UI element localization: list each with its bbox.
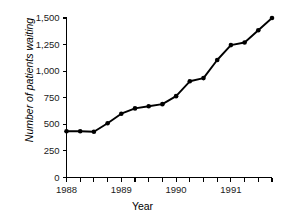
data-point-marker xyxy=(256,28,261,33)
y-axis-tick-label: 0 xyxy=(18,173,60,183)
data-point-marker xyxy=(201,76,206,81)
data-line xyxy=(67,18,273,132)
line-chart: 02505007501,0001,2501,500 19881989199019… xyxy=(0,0,285,222)
data-point-marker xyxy=(242,40,247,45)
x-axis-tick-label: 1991 xyxy=(209,185,253,195)
x-axis-tick-label: 1989 xyxy=(99,185,143,195)
x-axis-title: Year xyxy=(0,200,285,212)
data-point-marker xyxy=(188,79,193,84)
data-point-marker xyxy=(146,104,151,109)
data-point-marker xyxy=(174,94,179,99)
data-series-line xyxy=(64,16,274,134)
data-point-marker xyxy=(64,129,69,134)
data-point-marker xyxy=(229,43,234,48)
data-point-marker xyxy=(92,129,97,134)
axes xyxy=(63,18,273,182)
data-point-marker xyxy=(133,106,138,111)
y-axis-title: Number of patients waiting xyxy=(23,5,35,155)
data-point-marker xyxy=(270,16,275,21)
data-point-marker xyxy=(160,102,165,107)
data-point-marker xyxy=(215,58,220,63)
data-point-marker xyxy=(78,129,83,134)
data-point-marker xyxy=(119,111,124,116)
x-axis-tick-label: 1990 xyxy=(154,185,198,195)
data-point-marker xyxy=(105,121,110,126)
x-axis-tick-label: 1988 xyxy=(45,185,89,195)
